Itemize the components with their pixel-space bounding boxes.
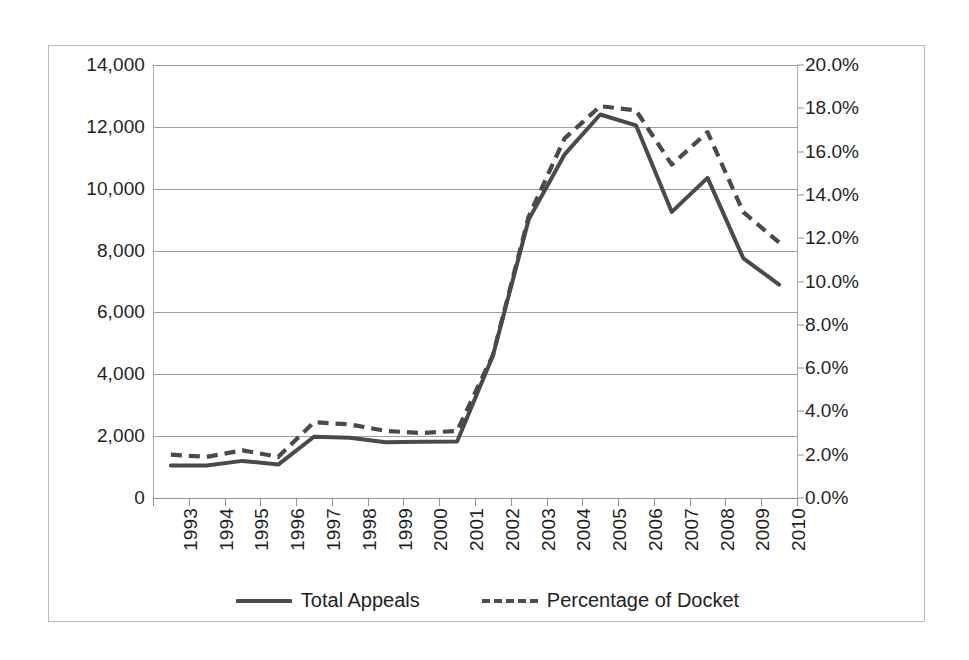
right-axis-tick-label: 20.0% bbox=[805, 54, 905, 76]
right-axis-tick bbox=[797, 368, 804, 369]
right-axis-tick bbox=[797, 194, 804, 195]
x-axis-tick bbox=[582, 498, 583, 506]
x-axis-tick-label: 2003 bbox=[538, 508, 560, 586]
right-axis-tick bbox=[797, 411, 804, 412]
right-axis-tick-label: 10.0% bbox=[805, 271, 905, 293]
right-axis-tick bbox=[797, 281, 804, 282]
series-line-percentage-of-docket bbox=[171, 106, 779, 457]
x-axis-tick-label: 1993 bbox=[180, 508, 202, 586]
x-axis-tick bbox=[260, 498, 261, 506]
x-axis-tick-label: 1999 bbox=[395, 508, 417, 586]
x-axis-tick-label: 2010 bbox=[788, 508, 810, 586]
right-axis-tick-label: 8.0% bbox=[805, 314, 905, 336]
x-axis-tick-label: 2005 bbox=[609, 508, 631, 586]
right-axis-tick-label: 18.0% bbox=[805, 97, 905, 119]
right-axis-tick-label: 14.0% bbox=[805, 184, 905, 206]
x-axis-tick bbox=[403, 498, 404, 506]
x-axis-tick bbox=[296, 498, 297, 506]
left-axis-tick-label: 12,000 bbox=[53, 116, 145, 138]
x-axis-tick-label: 1994 bbox=[216, 508, 238, 586]
left-axis-tick-label: 0 bbox=[53, 487, 145, 509]
series-layer bbox=[153, 65, 797, 498]
x-axis-labels: 1993199419951996199719981999200020012002… bbox=[153, 508, 798, 586]
plot-area bbox=[153, 65, 797, 498]
legend-entry[interactable]: Total Appeals bbox=[236, 589, 420, 612]
right-axis-tick-label: 16.0% bbox=[805, 141, 905, 163]
chart-frame: 02,0004,0006,0008,00010,00012,00014,000 … bbox=[48, 45, 925, 622]
right-axis-tick bbox=[797, 108, 804, 109]
x-axis-tick-label: 2001 bbox=[466, 508, 488, 586]
right-axis-tick-label: 6.0% bbox=[805, 357, 905, 379]
legend-solid-line-icon bbox=[236, 599, 292, 603]
x-axis-tick bbox=[475, 498, 476, 506]
right-axis-tick-label: 4.0% bbox=[805, 400, 905, 422]
x-axis-tick bbox=[761, 498, 762, 506]
right-axis-tick bbox=[797, 65, 804, 66]
x-axis-tick-label: 2006 bbox=[645, 508, 667, 586]
legend-entry[interactable]: Percentage of Docket bbox=[482, 589, 739, 612]
x-axis-tick bbox=[368, 498, 369, 506]
x-axis-tick bbox=[511, 498, 512, 506]
x-axis-tick bbox=[690, 498, 691, 506]
x-axis-tick bbox=[189, 498, 190, 506]
right-axis-labels: 0.0%2.0%4.0%6.0%8.0%10.0%12.0%14.0%16.0%… bbox=[805, 65, 915, 498]
x-axis-tick-label: 1995 bbox=[251, 508, 273, 586]
x-axis-tick bbox=[547, 498, 548, 506]
right-axis-line bbox=[797, 65, 798, 498]
right-axis-tick bbox=[797, 238, 804, 239]
x-axis-tick-label: 2000 bbox=[430, 508, 452, 586]
legend-label: Percentage of Docket bbox=[547, 589, 739, 612]
right-axis-tick bbox=[797, 454, 804, 455]
x-axis-tick-label: 1996 bbox=[287, 508, 309, 586]
series-line-total-appeals bbox=[171, 114, 779, 465]
legend-dashed-line-icon bbox=[482, 599, 538, 603]
x-axis-tick bbox=[797, 498, 798, 506]
x-axis-tick bbox=[332, 498, 333, 506]
x-axis-tick bbox=[153, 498, 154, 506]
x-axis-tick-label: 2009 bbox=[752, 508, 774, 586]
right-axis-tick-label: 12.0% bbox=[805, 227, 905, 249]
left-axis-tick-label: 10,000 bbox=[53, 178, 145, 200]
gridline bbox=[153, 498, 797, 499]
right-axis-tick-label: 0.0% bbox=[805, 487, 905, 509]
left-axis-labels: 02,0004,0006,0008,00010,00012,00014,000 bbox=[49, 65, 145, 498]
left-axis-tick-label: 6,000 bbox=[53, 301, 145, 323]
x-axis-tick bbox=[654, 498, 655, 506]
x-axis-tick-label: 2008 bbox=[717, 508, 739, 586]
legend-label: Total Appeals bbox=[301, 589, 420, 612]
right-axis-tick bbox=[797, 324, 804, 325]
x-axis-tick bbox=[225, 498, 226, 506]
left-axis-tick-label: 8,000 bbox=[53, 240, 145, 262]
x-axis-tick-label: 2002 bbox=[502, 508, 524, 586]
right-axis-tick bbox=[797, 498, 804, 499]
x-axis-tick bbox=[618, 498, 619, 506]
x-axis-tick-label: 2007 bbox=[681, 508, 703, 586]
x-axis-tick-label: 1998 bbox=[359, 508, 381, 586]
chart-legend: Total AppealsPercentage of Docket bbox=[49, 589, 926, 612]
right-axis-tick bbox=[797, 151, 804, 152]
x-axis-tick-label: 1997 bbox=[323, 508, 345, 586]
x-axis-tick-label: 2004 bbox=[573, 508, 595, 586]
x-axis-ticks bbox=[153, 498, 798, 507]
x-axis-tick bbox=[439, 498, 440, 506]
x-axis-tick bbox=[725, 498, 726, 506]
left-axis-tick-label: 14,000 bbox=[53, 54, 145, 76]
right-axis-tick-label: 2.0% bbox=[805, 444, 905, 466]
left-axis-tick-label: 4,000 bbox=[53, 363, 145, 385]
left-axis-tick-label: 2,000 bbox=[53, 425, 145, 447]
